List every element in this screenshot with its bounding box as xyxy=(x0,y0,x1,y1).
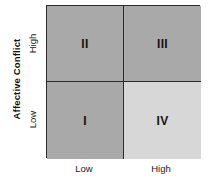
y-axis-title: Affective Conflict xyxy=(10,4,24,154)
plot-area: II III I IV xyxy=(46,5,200,158)
x-axis-tick-high: High xyxy=(126,162,196,175)
quadrant-bottom-left: I xyxy=(47,82,124,159)
quadrant-top-left: II xyxy=(47,6,124,82)
quadrant-label-III: III xyxy=(157,38,168,50)
quadrant-top-right: III xyxy=(124,6,201,82)
y-axis-tick-low: Low xyxy=(26,94,39,146)
quadrant-matrix-figure: Affective Conflict High Low II III I IV … xyxy=(0,0,213,190)
quadrant-label-II: II xyxy=(81,38,88,50)
quadrant-label-IV: IV xyxy=(157,115,169,127)
quadrant-bottom-right: IV xyxy=(124,82,201,159)
quadrant-label-I: I xyxy=(83,115,87,127)
y-axis-tick-high: High xyxy=(26,18,39,70)
x-axis-tick-low: Low xyxy=(49,162,119,175)
